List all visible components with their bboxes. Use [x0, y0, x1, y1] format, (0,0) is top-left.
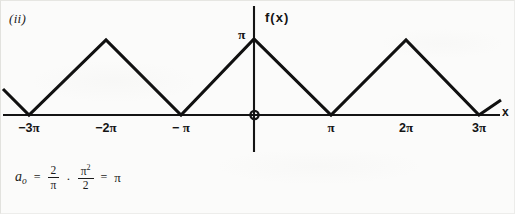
function-label: f(x): [265, 11, 289, 24]
equals-sign-second: =: [101, 170, 108, 185]
x-tick-text: −3: [18, 121, 32, 135]
exponent: 2: [87, 163, 91, 172]
amplitude-label: π: [238, 28, 245, 42]
fraction-numerator: 2: [48, 164, 60, 178]
fraction-denominator: π: [48, 178, 60, 191]
pi-glyph: π: [327, 120, 334, 135]
x-tick-label-neg3pi: −3π: [18, 121, 39, 135]
equation-result: π: [114, 170, 121, 186]
x-tick-label-3pi: 3π: [472, 121, 486, 135]
variable-subscript: o: [22, 176, 27, 186]
x-tick-text: −: [172, 121, 183, 135]
pi-glyph: π: [183, 120, 190, 135]
variable-base: a: [15, 169, 22, 184]
waveform-curve: [3, 39, 501, 115]
pi-glyph: π: [479, 120, 486, 135]
x-axis-label: x: [502, 106, 509, 118]
part-label: (ii): [9, 12, 26, 25]
x-tick-label-neg2pi: −2π: [95, 121, 116, 135]
figure-page: (ii) f(x) π x −3π −2π − π π 2π 3π ao = 2…: [0, 0, 515, 214]
x-tick-text: 3: [472, 121, 479, 135]
fraction-two-over-pi: 2 π: [48, 164, 60, 191]
x-tick-text: 2: [399, 121, 406, 135]
x-tick-label-2pi: 2π: [399, 121, 413, 135]
equation-variable: ao: [15, 169, 27, 186]
pi-glyph: π: [406, 120, 413, 135]
x-tick-text: −2: [95, 121, 109, 135]
fraction-pi-squared-over-two: π2 2: [78, 164, 94, 192]
fourier-coefficient-equation: ao = 2 π · π2 2 = π: [15, 164, 128, 192]
equals-sign-first: =: [34, 170, 41, 185]
pi-glyph: π: [110, 120, 117, 135]
fraction-numerator: π2: [78, 164, 94, 179]
pi-glyph: π: [33, 120, 40, 135]
x-tick-label-pi: π: [327, 121, 334, 135]
multiplication-dot: ·: [66, 172, 70, 185]
x-tick-label-negpi: − π: [172, 121, 190, 135]
fraction-denominator: 2: [80, 179, 92, 192]
